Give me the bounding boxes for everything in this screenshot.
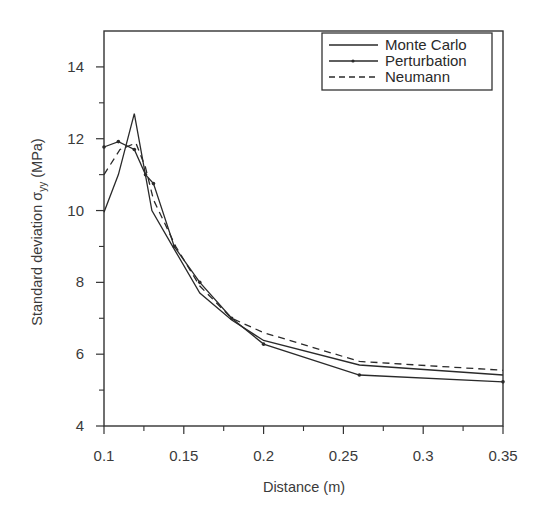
x-tick-label: 0.1 <box>94 447 115 464</box>
x-axis-title: Distance (m) <box>263 479 345 495</box>
legend-marker-dot-icon <box>351 59 354 62</box>
series-perturbation <box>102 140 505 384</box>
x-tick-label: 0.2 <box>253 447 274 464</box>
legend-label: Neumann <box>385 68 450 85</box>
y-axis-title-unit: (MPa) <box>29 138 45 182</box>
series-line-neumann <box>104 143 503 370</box>
y-tick-label: 10 <box>67 202 84 219</box>
series-line-monte-carlo <box>104 114 503 375</box>
y-axis-title: Standard deviation σyy (MPa) <box>29 138 48 325</box>
y-tick-label: 6 <box>76 345 84 362</box>
y-axis-title-main: Standard deviation σ <box>29 192 45 326</box>
series-monte-carlo <box>104 114 503 375</box>
data-point-marker <box>152 182 156 186</box>
data-point-marker <box>117 140 121 144</box>
x-tick-label: 0.35 <box>488 447 517 464</box>
y-tick-label: 8 <box>76 273 84 290</box>
x-tick-label: 0.3 <box>413 447 434 464</box>
x-tick-label: 0.15 <box>169 447 198 464</box>
y-tick-label: 12 <box>67 130 84 147</box>
series-neumann <box>104 143 503 370</box>
data-point-marker <box>198 281 202 285</box>
legend-label: Monte Carlo <box>385 36 467 53</box>
data-point-marker <box>358 373 362 377</box>
y-axis-title-subscript: yy <box>37 182 48 192</box>
x-tick-label: 0.25 <box>329 447 358 464</box>
data-point-marker <box>262 342 266 346</box>
x-axis-ticks: 0.10.150.20.250.30.35 <box>94 426 518 464</box>
legend-label: Perturbation <box>385 52 467 69</box>
data-point-marker <box>102 145 106 149</box>
y-axis-ticks: 468101214 <box>67 58 104 434</box>
line-chart: 0.10.150.20.250.30.35 468101214 Distance… <box>0 0 541 518</box>
y-tick-label: 14 <box>67 58 84 75</box>
data-point-marker <box>501 380 505 384</box>
legend: Monte Carlo Perturbation Neumann <box>322 33 492 90</box>
plot-area <box>102 114 505 384</box>
series-line-perturbation <box>104 142 503 382</box>
data-point-marker <box>144 173 148 177</box>
data-point-marker <box>133 148 137 152</box>
data-point-marker <box>230 316 234 320</box>
y-tick-label: 4 <box>76 417 84 434</box>
